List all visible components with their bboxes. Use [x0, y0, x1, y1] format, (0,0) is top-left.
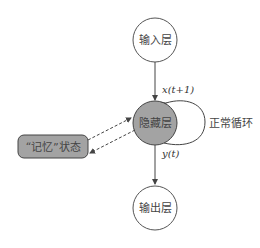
hidden-layer-label: 隐藏层: [139, 117, 172, 130]
output-layer-node: 输出层: [133, 186, 177, 230]
self-loop-label: 正常循环: [209, 117, 253, 130]
input-layer-label: 输入层: [139, 33, 172, 47]
hidden-layer-node: 隐藏层: [133, 101, 177, 145]
rnn-diagram: 输入层 x(t+1) 正常循环 隐藏层 “记忆”状态 y(t) 输出层: [0, 0, 260, 248]
input-edge-label: x(t+1): [162, 84, 194, 95]
memory-state-node: “记忆”状态: [18, 135, 88, 158]
input-layer-node: 输入层: [133, 18, 177, 62]
hidden-to-memory-dashed-arrow: [90, 130, 135, 153]
memory-state-label: “记忆”状态: [25, 140, 80, 154]
output-layer-label: 输出层: [139, 201, 172, 215]
memory-to-hidden-dashed-arrow: [88, 118, 131, 140]
output-edge-label: y(t): [161, 148, 180, 159]
